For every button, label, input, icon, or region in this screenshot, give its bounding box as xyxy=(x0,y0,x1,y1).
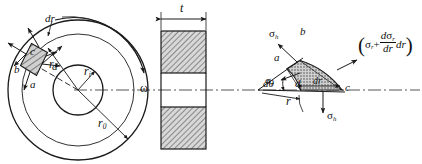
detail-radius-arrow xyxy=(262,93,300,99)
detail-corner-d-label: d xyxy=(295,78,301,89)
sigma-h-bottom-subscript: h xyxy=(333,115,336,122)
detail-radial-stress-gradient-expression: (σr+dσrdrdr) xyxy=(358,30,413,56)
detail-corner-a-label: a xyxy=(274,52,280,63)
expr-fraction: dσrdr xyxy=(380,30,396,55)
detail-radius-reference-arc xyxy=(299,95,303,112)
detail-corner-b-label: b xyxy=(300,26,306,37)
front-view-omega-label: ω xyxy=(140,82,148,94)
expr-fraction-denominator: dr xyxy=(380,43,396,54)
ri-subscript: i xyxy=(89,70,91,79)
diagram-vector-canvas xyxy=(0,0,422,164)
side-view-group xyxy=(161,12,206,149)
side-view-lower-section xyxy=(161,107,206,149)
r0-subscript: 0 xyxy=(103,122,107,131)
front-view-group xyxy=(8,17,148,160)
detail-radial-stress-gradient-arrow xyxy=(337,60,357,70)
sigma-h-top-subscript: h xyxy=(275,33,278,40)
detail-dr-label: dr xyxy=(313,76,322,86)
expr-trailing-dr: dr xyxy=(396,38,406,50)
front-view-corner-a-label: a xyxy=(30,79,36,90)
rotating-disk-stress-diagram: dr c b a d r ri r0 ω t σh b a σr d c dr … xyxy=(0,0,422,164)
expr-open-paren: ( xyxy=(358,33,365,57)
expr-fraction-numerator: dσr xyxy=(380,30,396,43)
front-view-dr-label: dr xyxy=(45,13,55,24)
side-view-upper-section xyxy=(161,31,206,73)
expr-close-paren: ) xyxy=(406,33,413,57)
front-view-radius-r-label: r xyxy=(49,58,54,70)
detail-hoop-stress-top-arrow xyxy=(278,44,297,62)
side-view-thickness-label: t xyxy=(180,2,183,14)
front-view-corner-c-label: c xyxy=(30,46,35,57)
detail-hoop-stress-bottom-label: σh xyxy=(327,110,336,122)
detail-hoop-stress-top-label: σh xyxy=(269,28,278,40)
rotation-direction-arc-outer xyxy=(62,17,141,63)
detail-angle-arc xyxy=(283,78,284,91)
detail-radius-label: r xyxy=(286,95,291,107)
front-view-corner-b-label: b xyxy=(14,64,20,75)
detail-angle-label: dθ xyxy=(263,78,274,89)
detail-corner-c-label: c xyxy=(345,82,350,93)
front-view-radius-r0-label: r0 xyxy=(98,117,106,130)
front-view-radius-ri-label: ri xyxy=(84,65,91,78)
expr-num-subscript: r xyxy=(392,35,395,42)
